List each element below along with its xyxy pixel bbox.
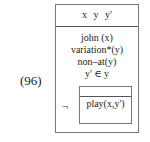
sub-drs-box: play(x,y') [79, 86, 132, 124]
drs-referents: x y y' [56, 5, 138, 27]
negation-symbol: ¬ [62, 100, 68, 112]
sub-drs-divider [80, 96, 131, 97]
condition-non-at: non–at(y) [56, 56, 138, 68]
condition-variation: variation*(y) [56, 44, 138, 56]
drs-box: x y y' john (x) variation*(y) non–at(y) … [55, 4, 139, 133]
example-number: (96) [20, 73, 42, 89]
condition-membership: y' ∈ y [56, 68, 138, 80]
condition-john: john (x) [56, 32, 138, 44]
sub-drs-condition-play: play(x,y') [80, 98, 131, 109]
drs-conditions: john (x) variation*(y) non–at(y) y' ∈ y [56, 32, 138, 80]
